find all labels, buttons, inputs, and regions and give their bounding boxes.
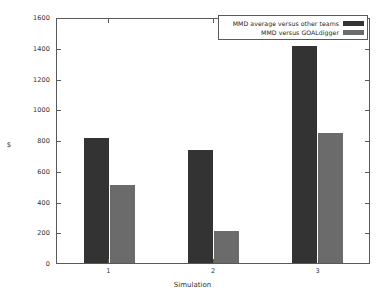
y-tick-mark <box>365 80 370 81</box>
y-tick-mark <box>56 172 61 173</box>
y-tick-mark <box>56 49 61 50</box>
x-tick-mark <box>318 259 319 264</box>
x-tick-mark <box>108 18 109 23</box>
y-tick-label: 1400 <box>0 45 50 53</box>
y-tick-label: 400 <box>0 199 50 207</box>
x-tick-label: 2 <box>211 267 215 275</box>
y-tick-mark <box>56 203 61 204</box>
y-tick-mark <box>365 49 370 50</box>
y-tick-mark <box>365 233 370 234</box>
y-tick-mark <box>365 141 370 142</box>
bar <box>110 185 135 263</box>
y-tick-mark <box>56 233 61 234</box>
bar <box>214 231 239 263</box>
x-axis-label: Simulation <box>0 281 385 289</box>
y-tick-mark <box>56 80 61 81</box>
y-axis-label: $ <box>2 141 16 149</box>
legend-label: MMD versus GOALdigger <box>261 29 339 36</box>
legend: MMD average versus other teams MMD versu… <box>218 15 368 40</box>
y-tick-label: 600 <box>0 168 50 176</box>
x-tick-label: 1 <box>106 267 110 275</box>
legend-swatch-icon <box>343 30 364 35</box>
y-tick-mark <box>56 110 61 111</box>
y-tick-label: 200 <box>0 229 50 237</box>
y-tick-label: 0 <box>0 260 50 268</box>
bars-layer <box>57 19 369 263</box>
y-tick-mark <box>365 110 370 111</box>
bar <box>84 138 109 263</box>
legend-item: MMD average versus other teams <box>221 19 364 27</box>
y-tick-mark <box>365 172 370 173</box>
bar <box>188 150 213 263</box>
y-tick-label: 1200 <box>0 76 50 84</box>
bar-chart: 02004006008001000120014001600 $ 123 Simu… <box>0 0 385 300</box>
y-tick-mark <box>365 203 370 204</box>
bar <box>318 133 343 263</box>
x-tick-mark <box>213 259 214 264</box>
y-tick-label: 1600 <box>0 14 50 22</box>
bar <box>292 46 317 263</box>
legend-swatch-icon <box>343 21 364 26</box>
y-tick-label: 1000 <box>0 106 50 114</box>
x-tick-label: 3 <box>316 267 320 275</box>
x-tick-mark <box>108 259 109 264</box>
legend-label: MMD average versus other teams <box>233 20 339 27</box>
y-tick-mark <box>56 141 61 142</box>
legend-item: MMD versus GOALdigger <box>221 28 364 36</box>
x-tick-mark <box>213 18 214 23</box>
